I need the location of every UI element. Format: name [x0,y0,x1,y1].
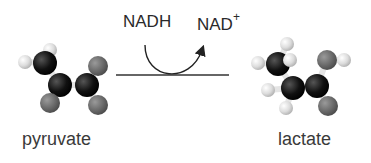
carbon-atom [305,74,329,98]
carbon-atom [281,76,305,100]
oxygen-atom [318,96,338,116]
oxygen-atom [317,50,337,70]
pyruvate-label: pyruvate [22,129,91,150]
hydrogen-atom [279,101,293,115]
oxygen-atom [88,95,108,115]
nad-base: NAD [197,15,233,34]
oxygen-atom [40,93,60,113]
hydrogen-atom [251,56,265,70]
nadh-label: NADH [123,12,171,32]
carbon-atom [33,51,57,75]
curved-arrow-icon [145,45,202,74]
nad-charge: + [233,10,240,24]
hydrogen-atom [283,53,297,67]
hydrogen-atom [337,53,351,67]
pyruvate-molecule [18,43,108,115]
oxygen-atom [88,56,108,76]
carbon-atom [75,73,99,97]
hydrogen-atom [261,83,275,97]
nad-plus-label: NAD+ [197,12,240,35]
lactate-molecule [251,37,351,116]
hydrogen-atom [280,37,294,51]
hydrogen-atom [18,55,32,69]
lactate-label: lactate [278,129,331,150]
